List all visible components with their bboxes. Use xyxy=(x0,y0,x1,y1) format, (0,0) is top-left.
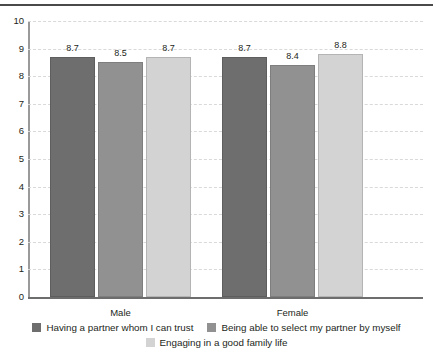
y-axis-tick-label: 1 xyxy=(2,264,24,274)
legend-color-swatch xyxy=(146,338,155,347)
x-axis-line xyxy=(28,297,423,299)
y-axis-tick-labels: 109876543210 xyxy=(0,21,24,298)
bar-value-label: 8.7 xyxy=(222,44,267,53)
bar-value-label: 8.7 xyxy=(50,44,95,53)
gridline xyxy=(28,21,423,22)
bar-value-label: 8.7 xyxy=(146,44,191,53)
legend-row: Engaging in a good family life xyxy=(0,337,433,348)
bar-chart: 109876543210 8.78.58.78.78.48.8 MaleFema… xyxy=(0,6,433,302)
y-axis-tick-label: 4 xyxy=(2,182,24,192)
legend-item[interactable]: Being able to select my partner by mysel… xyxy=(207,322,400,333)
legend-label: Having a partner whom I can trust xyxy=(46,322,193,333)
legend-item[interactable]: Engaging in a good family life xyxy=(146,337,288,348)
y-axis-tick-label: 8 xyxy=(2,71,24,81)
y-axis-tick-label: 0 xyxy=(2,292,24,302)
y-axis-tick-label: 7 xyxy=(2,99,24,109)
bar xyxy=(318,54,363,297)
y-axis-tick-label: 10 xyxy=(2,16,24,26)
legend-color-swatch xyxy=(207,323,216,332)
legend-color-swatch xyxy=(32,323,41,332)
bar-value-label: 8.4 xyxy=(270,52,315,61)
bar xyxy=(98,62,143,297)
bar xyxy=(270,65,315,297)
bar xyxy=(222,57,267,297)
plot-area: 8.78.58.78.78.48.8 xyxy=(28,21,423,297)
x-axis-category-label: Female xyxy=(222,308,363,318)
y-axis-tick-label: 9 xyxy=(2,44,24,54)
bar-value-label: 8.5 xyxy=(98,49,143,58)
y-axis-tick-label: 2 xyxy=(2,237,24,247)
bar xyxy=(146,57,191,297)
bar xyxy=(50,57,95,297)
y-axis-tick-label: 3 xyxy=(2,209,24,219)
y-axis-tick-label: 6 xyxy=(2,126,24,136)
x-axis-category-label: Male xyxy=(50,308,191,318)
chart-legend: Having a partner whom I can trustBeing a… xyxy=(0,322,433,352)
legend-label: Engaging in a good family life xyxy=(160,337,288,348)
legend-row: Having a partner whom I can trustBeing a… xyxy=(0,322,433,333)
legend-item[interactable]: Having a partner whom I can trust xyxy=(32,322,193,333)
legend-label: Being able to select my partner by mysel… xyxy=(221,322,400,333)
y-axis-tick-label: 5 xyxy=(2,154,24,164)
bar-value-label: 8.8 xyxy=(318,41,363,50)
